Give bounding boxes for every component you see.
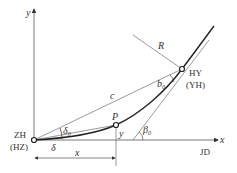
y-axis-label: y bbox=[25, 7, 31, 18]
chord-label: c bbox=[110, 90, 115, 101]
p-label: P bbox=[111, 111, 118, 122]
delta0-label: δ0 bbox=[63, 125, 71, 137]
jd-label: JD bbox=[200, 147, 211, 157]
yh-label: (YH) bbox=[186, 80, 205, 90]
zh-point bbox=[32, 138, 37, 143]
y-dim-label: y bbox=[118, 128, 124, 139]
radius-label: R bbox=[157, 40, 164, 51]
x-axis-label: x bbox=[219, 134, 225, 145]
hz-label: (HZ) bbox=[10, 142, 28, 152]
p-point bbox=[114, 123, 119, 128]
transition-curve-diagram: y x JD c R b0 β0 δ0 δ y x ZH (HZ) P HY (… bbox=[0, 0, 237, 173]
hy-label: HY bbox=[189, 68, 202, 78]
zh-label: ZH bbox=[14, 130, 26, 140]
b0-label: b0 bbox=[157, 78, 165, 90]
beta0-label: β0 bbox=[142, 124, 151, 136]
zh-to-p-line bbox=[34, 125, 116, 140]
x-dim-label: x bbox=[74, 147, 80, 158]
hy-point bbox=[180, 67, 185, 72]
delta-label: δ bbox=[51, 142, 56, 153]
